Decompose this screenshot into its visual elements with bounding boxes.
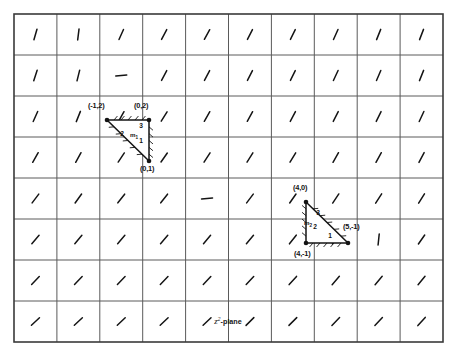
vertex-coordinate-label: (-1,2) bbox=[88, 101, 105, 110]
triangle-vertex-dot bbox=[147, 118, 152, 123]
vertex-coordinate-label: (0,1) bbox=[140, 164, 155, 173]
side-number-label: 3 bbox=[316, 209, 320, 216]
triangle-vertex-dot bbox=[304, 200, 309, 205]
vertex-coordinate-label: (4,-1) bbox=[294, 249, 311, 258]
side-number-label: 1 bbox=[328, 232, 332, 239]
plane-caption-text: z2-plane bbox=[213, 316, 242, 326]
triangle-vertex-dot bbox=[105, 118, 110, 123]
caption-suffix: -plane bbox=[221, 317, 242, 326]
side-number-label: 3 bbox=[139, 122, 143, 129]
z2-plane-figure: (-1,2)(0,2)(0,1)231m1(4,0)(5,-1)(4,-1)32… bbox=[0, 0, 457, 354]
side-number-label: 1 bbox=[139, 137, 143, 144]
side-number-label: 2 bbox=[120, 130, 124, 137]
region-label-subscript: 1 bbox=[135, 135, 138, 140]
triangle-vertex-dot bbox=[346, 241, 351, 246]
vertex-coordinate-label: (4,0) bbox=[293, 183, 308, 192]
direction-tick bbox=[202, 198, 213, 199]
plane-caption: z2-plane bbox=[213, 316, 242, 326]
side-number-label: 2 bbox=[313, 223, 317, 230]
region-label-subscript: 2 bbox=[309, 223, 312, 228]
triangle-vertex-dot bbox=[304, 241, 309, 246]
vertex-coordinate-label: (5,-1) bbox=[343, 222, 360, 231]
triangle-vertex-dot bbox=[147, 159, 152, 164]
vertex-coordinate-label: (0,2) bbox=[134, 101, 149, 110]
direction-tick bbox=[116, 75, 127, 76]
figure-canvas: (-1,2)(0,2)(0,1)231m1(4,0)(5,-1)(4,-1)32… bbox=[0, 0, 457, 354]
